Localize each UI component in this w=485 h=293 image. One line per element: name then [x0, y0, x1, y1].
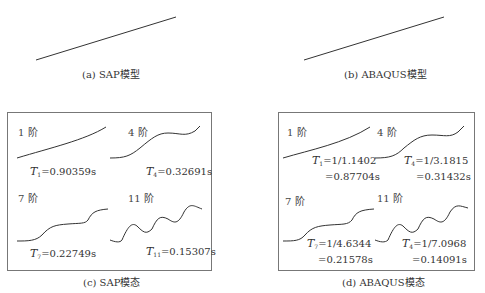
abaqus-mode-7-period: T7=1/4.6344 — [307, 237, 371, 250]
abaqus-mode-1-period-result: =0.87704s — [325, 171, 380, 182]
abaqus-model-beam — [304, 17, 444, 60]
caption-a: (a) SAP模型 — [82, 66, 140, 81]
sap-mode-7-period: T7=0.22749s — [30, 247, 96, 260]
caption-b: (b) ABAQUS模型 — [344, 66, 427, 81]
caption-d: (d) ABAQUS模态 — [342, 274, 425, 289]
sap-mode-4-period: T4=0.32691s — [146, 165, 212, 178]
sap-mode-4-label: 4 阶 — [128, 124, 148, 139]
sap-mode-7-label: 7 阶 — [18, 190, 38, 205]
abaqus-mode-4-period-result: =0.31432s — [416, 171, 471, 182]
caption-c: (c) SAP模态 — [83, 274, 140, 289]
abaqus-mode-11-period: T4=1/7.0968 — [402, 237, 466, 250]
sap-mode-1-period: T1=0.90359s — [30, 165, 96, 178]
abaqus-mode-4-period: T4=1/3.1815 — [404, 154, 468, 167]
abaqus-mode-11-period-result: =0.14091s — [412, 254, 467, 265]
abaqus-mode-7-label: 7 阶 — [285, 193, 305, 208]
abaqus-mode-4-label: 4 阶 — [377, 124, 397, 139]
abaqus-mode-1-period: T1=1/1.1402 — [312, 154, 376, 167]
sap-mode-11-period: T11=0.15307s — [146, 245, 216, 258]
abaqus-mode-7-period-result: =0.21578s — [318, 254, 373, 265]
abaqus-mode-11-label: 11 阶 — [377, 190, 403, 205]
abaqus-mode-1-label: 1 阶 — [287, 124, 307, 139]
sap-mode-11-label: 11 阶 — [128, 190, 154, 205]
sap-mode-1-label: 1 阶 — [18, 124, 38, 139]
sap-model-beam — [36, 17, 176, 60]
